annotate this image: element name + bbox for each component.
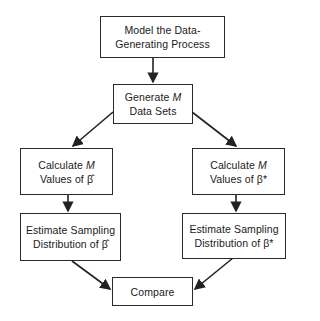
- arrow-generate-to-calc-hat: [73, 112, 113, 146]
- node-generate-line2: Data Sets: [129, 104, 176, 118]
- node-calc-hat: Calculate M Values of β̂: [20, 148, 113, 195]
- node-calc-star-line1: Calculate M: [210, 158, 267, 172]
- node-calc-star-line2: Values of β*: [210, 172, 267, 186]
- node-est-hat-line2: Distribution of β̂: [33, 237, 108, 251]
- arrow-est-star-to-compare: [195, 258, 233, 289]
- node-compare: Compare: [112, 277, 193, 306]
- node-calc-hat-line2: Values of β̂: [40, 172, 93, 186]
- arrow-est-hat-to-compare: [72, 261, 110, 289]
- arrow-generate-to-calc-star: [192, 112, 236, 146]
- node-model-line2: Generating Process: [115, 37, 210, 51]
- node-generate-line1: Generate M: [125, 90, 181, 104]
- node-est-hat-line1: Estimate Sampling: [26, 223, 115, 237]
- node-generate: Generate M Data Sets: [113, 84, 193, 124]
- node-calc-hat-line1: Calculate M: [38, 158, 95, 172]
- node-est-star: Estimate Sampling Distribution of β*: [182, 213, 286, 259]
- node-est-hat: Estimate Sampling Distribution of β̂: [20, 213, 121, 261]
- node-compare-label: Compare: [131, 285, 175, 299]
- node-model: Model the Data- Generating Process: [100, 16, 225, 58]
- node-est-star-line2: Distribution of β*: [194, 236, 273, 250]
- node-model-line1: Model the Data-: [124, 23, 200, 37]
- node-est-star-line1: Estimate Sampling: [189, 222, 278, 236]
- node-calc-star: Calculate M Values of β*: [192, 148, 285, 195]
